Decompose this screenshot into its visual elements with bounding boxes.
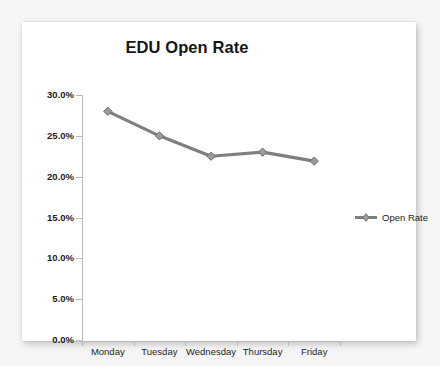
- legend-marker-icon: [354, 212, 378, 223]
- y-axis-tick-label: 20.0%: [26, 171, 74, 182]
- y-axis-tick-label: 25.0%: [26, 130, 74, 141]
- x-axis-tick-mark: [340, 341, 341, 346]
- y-axis-tick-mark: [76, 136, 82, 137]
- y-axis-tick-label: 5.0%: [26, 293, 74, 304]
- y-axis-tick-mark: [76, 177, 82, 178]
- legend: Open Rate: [354, 212, 428, 223]
- series-line-open-rate: [108, 111, 314, 161]
- x-axis-tick-label: Tuesday: [141, 346, 177, 357]
- x-axis-tick-mark: [185, 341, 186, 346]
- x-axis-tick-label: Monday: [91, 346, 125, 357]
- chart-screenshot: EDU Open Rate 0.0%5.0%10.0%15.0%20.0%25.…: [0, 0, 440, 366]
- y-axis-tick-mark: [76, 258, 82, 259]
- y-axis-tick-label: 15.0%: [26, 212, 74, 223]
- y-axis-labels: 0.0%5.0%10.0%15.0%20.0%25.0%30.0%: [22, 22, 74, 366]
- data-point-marker: [155, 132, 163, 140]
- y-axis-tick-mark: [76, 95, 82, 96]
- y-axis-tick-label: 0.0%: [26, 334, 74, 345]
- y-axis-tick-label: 30.0%: [26, 89, 74, 100]
- x-axis-tick-mark: [288, 341, 289, 346]
- data-point-marker: [310, 157, 318, 165]
- x-axis-tick-label: Friday: [301, 346, 327, 357]
- data-point-marker: [258, 148, 266, 156]
- data-point-marker: [207, 152, 215, 160]
- x-axis-tick-mark: [82, 341, 83, 346]
- chart-card: EDU Open Rate 0.0%5.0%10.0%15.0%20.0%25.…: [22, 22, 416, 341]
- y-axis-tick-label: 10.0%: [26, 252, 74, 263]
- y-axis-tick-mark: [76, 299, 82, 300]
- x-axis-tick-label: Thursday: [243, 346, 283, 357]
- legend-label-open-rate: Open Rate: [382, 212, 428, 223]
- x-axis-tick-label: Wednesday: [186, 346, 236, 357]
- series-plot: [22, 22, 440, 366]
- x-axis-tick-mark: [237, 341, 238, 346]
- x-axis-line: [82, 341, 340, 342]
- y-axis-tick-mark: [76, 218, 82, 219]
- x-axis-tick-mark: [134, 341, 135, 346]
- data-point-marker: [104, 107, 112, 115]
